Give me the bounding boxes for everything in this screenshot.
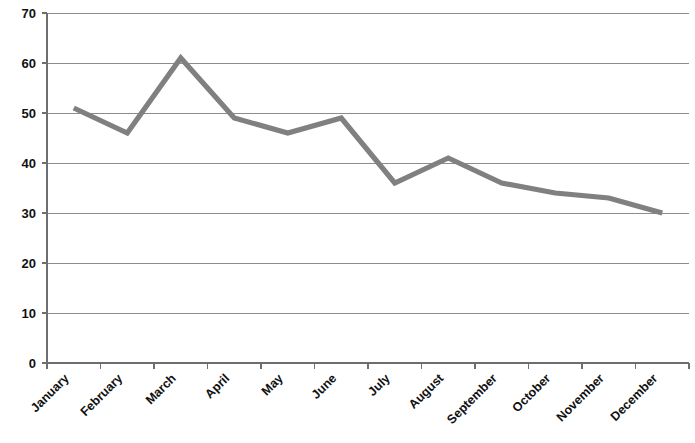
x-tick-label-february: February [78, 371, 126, 419]
line-chart: 010203040506070JanuaryFebruaryMarchApril… [0, 0, 695, 443]
chart-canvas: 010203040506070JanuaryFebruaryMarchApril… [0, 0, 695, 443]
y-tick-label: 10 [22, 306, 36, 321]
x-axis-ticks [47, 363, 689, 369]
y-tick-label: 40 [22, 156, 36, 171]
x-tick-label-march: March [143, 371, 179, 407]
x-tick-label-january: January [28, 371, 72, 415]
y-tick-label: 60 [22, 56, 36, 71]
x-tick-label-september: September [444, 371, 500, 427]
x-tick-label-november: November [554, 371, 607, 424]
x-tick-label-april: April [202, 371, 232, 401]
x-tick-label-august: August [406, 371, 447, 412]
gridlines [47, 13, 689, 313]
x-tick-label-december: December [608, 371, 661, 424]
y-tick-label: 50 [22, 106, 36, 121]
x-tick-label-june: June [309, 371, 340, 402]
data-series-line [74, 58, 663, 213]
x-axis-labels: JanuaryFebruaryMarchAprilMayJuneJulyAugu… [28, 371, 660, 427]
y-tick-label: 20 [22, 256, 36, 271]
y-tick-label: 0 [29, 356, 36, 371]
y-tick-label: 70 [22, 6, 36, 21]
x-tick-label-october: October [510, 371, 554, 415]
x-tick-label-july: July [365, 371, 393, 399]
y-axis-ticks: 010203040506070 [22, 6, 47, 371]
y-tick-label: 30 [22, 206, 36, 221]
x-tick-label-may: May [259, 371, 286, 398]
